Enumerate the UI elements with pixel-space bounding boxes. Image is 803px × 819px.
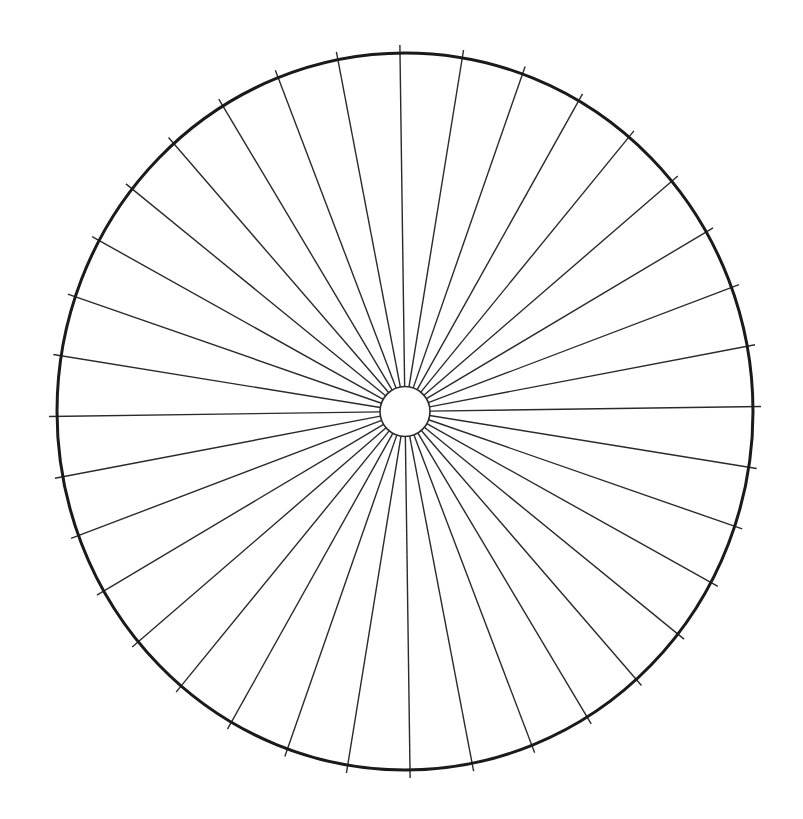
radial-spoke <box>400 45 405 386</box>
radial-spoke <box>97 424 384 595</box>
radial-spoke <box>55 416 380 478</box>
center-hub-circle <box>380 387 430 437</box>
radial-spoke <box>49 412 380 417</box>
radial-spoke <box>132 428 386 647</box>
radial-spoke <box>169 138 389 393</box>
radial-spoke <box>219 99 392 390</box>
radial-spoke <box>176 431 389 692</box>
radial-spoke <box>414 435 535 753</box>
radial-spoke <box>126 184 386 396</box>
radial-spoke <box>418 433 591 724</box>
radial-spoke <box>275 70 396 388</box>
radial-spoke <box>421 430 641 685</box>
radial-spoke <box>428 285 739 403</box>
radial-spoke <box>421 131 634 392</box>
radial-spoke <box>336 52 400 387</box>
radial-spoke <box>430 407 761 412</box>
radial-spoke <box>424 176 678 395</box>
radial-spoke <box>71 420 382 538</box>
radial-spoke <box>430 415 757 468</box>
radial-spoke <box>405 436 410 777</box>
radial-spoke <box>53 355 380 408</box>
radial-spoke <box>410 436 474 771</box>
radial-spoke <box>426 228 713 399</box>
radial-spoke <box>424 427 684 639</box>
radial-spoke <box>430 345 755 407</box>
radial-spoke <box>409 50 464 387</box>
radial-spoke <box>346 436 401 773</box>
radial-circle-diagram <box>0 0 803 819</box>
